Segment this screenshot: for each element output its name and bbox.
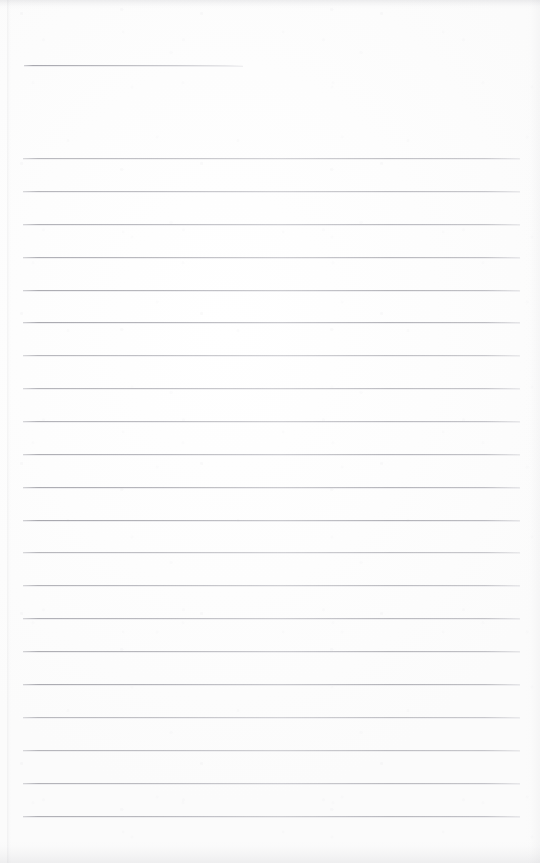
rule-line (23, 454, 520, 455)
rule-line (23, 585, 520, 586)
rule-line (23, 487, 520, 488)
page-edge-top-shadow (0, 0, 540, 9)
rule-line (23, 750, 520, 751)
page-edge-left (7, 0, 11, 863)
rule-line (23, 322, 520, 323)
rule-line (23, 421, 520, 422)
rule-line (23, 651, 520, 652)
header-rule-line (24, 65, 243, 66)
rule-line (23, 552, 520, 553)
rule-line (23, 816, 520, 817)
rule-line (23, 158, 520, 159)
rule-line (23, 684, 520, 685)
paper-background (0, 0, 540, 863)
rule-line (23, 783, 520, 784)
rule-line (23, 618, 520, 619)
rule-line (23, 257, 520, 258)
rule-line (23, 191, 520, 192)
paper-grain-texture (0, 0, 540, 863)
page-edge-right (524, 0, 540, 863)
rule-line (23, 717, 520, 718)
rule-line (23, 388, 520, 389)
scanned-page (0, 0, 540, 863)
rule-line (23, 520, 520, 521)
rule-line (23, 355, 520, 356)
page-edge-bottom-shadow (0, 841, 540, 863)
rule-line (23, 224, 520, 225)
rule-line (23, 290, 520, 291)
